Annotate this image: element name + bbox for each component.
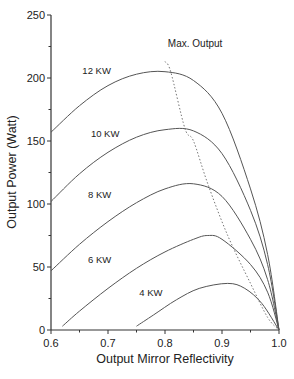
y-axis-label: Output Power (Watt)	[5, 115, 19, 228]
chart-svg: 0.60.70.80.91.0050100150200250 12 KW10 K…	[0, 0, 294, 379]
series-line-6-kw	[62, 235, 279, 330]
x-axis-label: Output Mirror Reflectivity	[96, 352, 234, 366]
x-tick-label: 1.0	[271, 337, 286, 349]
series-label: 10 KW	[91, 128, 120, 139]
max-output-label: Max. Output	[168, 38, 223, 49]
y-tick-label: 100	[27, 198, 45, 210]
y-tick-label: 150	[27, 135, 45, 147]
series-group	[51, 62, 279, 330]
chart: 0.60.70.80.91.0050100150200250 12 KW10 K…	[0, 0, 294, 379]
y-tick-label: 200	[27, 72, 45, 84]
y-tick-label: 50	[33, 261, 45, 273]
y-tick-label: 0	[39, 324, 45, 336]
series-line-12-kw	[51, 71, 279, 330]
series-label: 12 KW	[82, 65, 111, 76]
x-tick-label: 0.7	[100, 337, 115, 349]
series-label: 8 KW	[88, 189, 111, 200]
series-label: 6 KW	[88, 254, 111, 265]
y-tick-label: 250	[27, 9, 45, 21]
series-label: 4 KW	[139, 287, 162, 298]
series-line-8-kw	[51, 184, 279, 330]
x-tick-label: 0.8	[157, 337, 172, 349]
x-tick-label: 0.6	[43, 337, 58, 349]
x-tick-label: 0.9	[214, 337, 229, 349]
